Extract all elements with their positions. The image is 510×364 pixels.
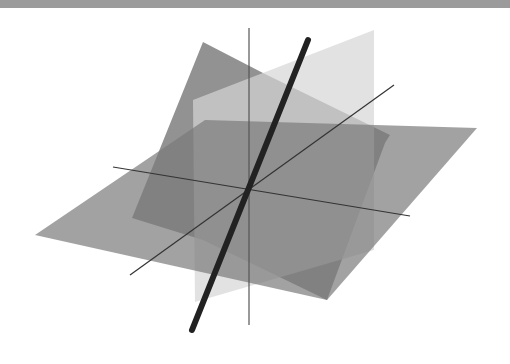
planes-diagram [0,0,510,364]
horizontal-plane [35,120,477,300]
